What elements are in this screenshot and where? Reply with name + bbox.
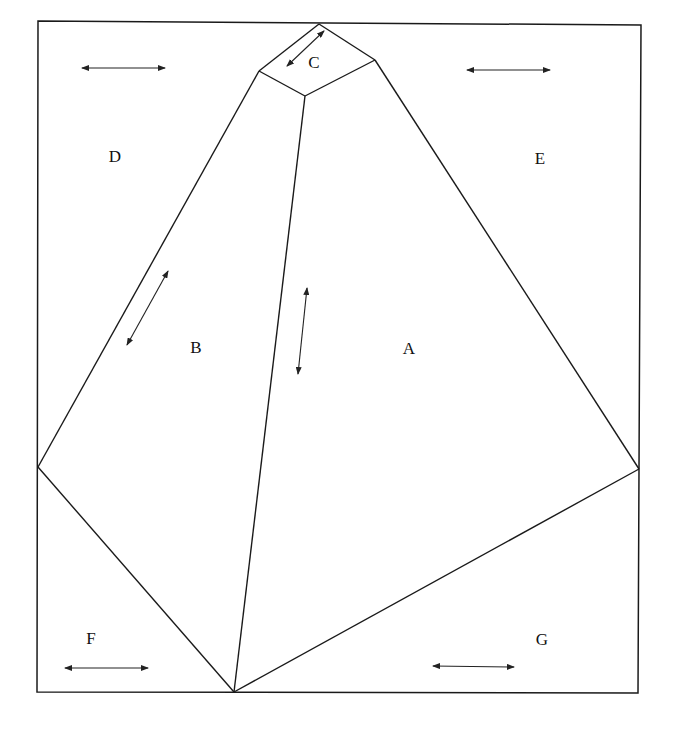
edge-cleft-cbottom [259,71,305,96]
region-label-g: G [536,630,548,649]
region-label-e: E [535,149,545,168]
fold-diagram: ABCDEFG [0,0,674,733]
region-label-a: A [403,339,416,358]
double-arrow-icon-g [433,666,514,667]
edge-left-bottom [38,467,234,692]
direction-arrows [65,31,550,668]
region-label-d: D [109,147,121,166]
double-arrow-icon-b [127,271,168,345]
edge-right-bottom [234,469,639,692]
edge-cbottom-bottom [234,96,305,692]
region-label-f: F [86,629,95,648]
region-label-b: B [190,338,201,357]
double-arrow-icon-a [298,288,307,374]
region-label-c: C [308,53,319,72]
outer-frame [37,21,641,693]
region-labels: ABCDEFG [86,53,548,649]
edge-top-cright [319,24,375,60]
crease-lines [38,24,639,692]
edge-cright-right [375,60,639,469]
edge-cleft-left [38,71,259,467]
